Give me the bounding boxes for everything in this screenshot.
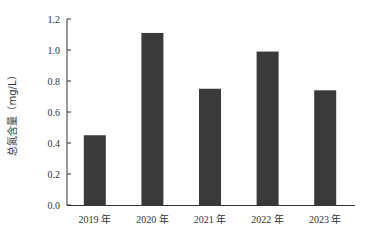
bar-2022: [257, 52, 279, 205]
bar-2023: [314, 90, 336, 205]
y-axis-title: 总氮含量（mg/L）: [6, 70, 18, 155]
y-tick-label: 1.0: [48, 45, 61, 56]
x-tick-label: 2022 年: [251, 213, 284, 225]
x-tick-label: 2019 年: [79, 213, 112, 225]
x-tick-label: 2023 年: [309, 213, 342, 225]
bars-group: [84, 33, 336, 205]
bar-2020: [141, 33, 163, 205]
x-axis-labels: 2019 年2020 年2021 年2022 年2023 年: [79, 213, 342, 225]
bar-chart: 0.00.20.40.60.81.01.2 2019 年2020 年2021 年…: [0, 0, 374, 245]
bar-2019: [84, 135, 106, 205]
y-tick-label: 0.2: [48, 169, 61, 180]
bar-2021: [199, 89, 221, 205]
y-tick-label: 0.4: [48, 138, 61, 149]
y-tick-label: 0.8: [48, 76, 61, 87]
x-tick-label: 2021 年: [194, 213, 227, 225]
y-tick-label: 0.0: [48, 200, 61, 211]
x-tick-label: 2020 年: [136, 213, 169, 225]
y-tick-label: 0.6: [48, 107, 61, 118]
y-tick-label: 1.2: [48, 14, 61, 25]
